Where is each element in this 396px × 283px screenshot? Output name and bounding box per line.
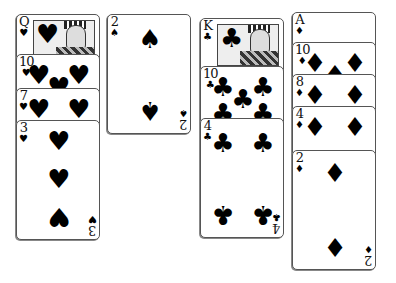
diamond-icon: ♦ [364,244,373,254]
card-index: K ♣ [203,19,212,42]
heart-icon: ♥ [88,214,97,224]
spade-icon: ♠ [138,98,161,124]
card-rank: 4 [273,222,280,235]
club-icon: ♣ [251,74,274,100]
diamond-icon: ♦ [303,82,326,108]
club-icon: ♣ [220,25,243,51]
card-index: A ♦ [295,13,304,36]
heart-icon: ♥ [19,134,28,144]
card-index: 2 ♠ [110,15,119,38]
card-2-of-diamonds[interactable]: 2 ♦ ♦ ♦ 2 ♦ [292,150,376,270]
card-rank: 2 [180,118,187,131]
card-index-bottom: 3 ♥ [88,214,97,237]
card-3-of-hearts[interactable]: 3 ♥ ♥ ♥ ♥ 3 ♥ [16,120,100,240]
heart-icon: ♥ [67,62,90,88]
heart-icon: ♥ [47,128,70,154]
heart-icon: ♥ [36,21,59,47]
diamond-icon: ♦ [295,164,304,174]
card-4-of-clubs[interactable]: 4 ♣ ♣ ♣ ♣ ♣ 4 ♣ [200,118,284,238]
card-index-bottom: 2 ♠ [179,108,188,131]
diamond-icon: ♦ [303,114,326,140]
heart-icon: ♥ [47,166,70,192]
diamond-icon: ♦ [343,50,366,76]
card-2-of-spades[interactable]: 2 ♠ ♠ ♠ 2 ♠ [107,14,191,134]
card-index: 2 ♦ [295,151,304,174]
heart-icon: ♥ [27,96,50,122]
club-icon: ♣ [211,202,234,228]
heart-icon: ♥ [67,96,90,122]
card-index-bottom: 2 ♦ [364,244,373,267]
diamond-icon: ♦ [295,26,304,36]
heart-icon: ♥ [47,204,70,230]
spade-icon: ♠ [138,26,161,52]
club-icon: ♣ [251,130,274,156]
diamond-icon: ♦ [323,234,346,260]
club-icon: ♣ [211,130,234,156]
card-index: 3 ♥ [19,121,28,144]
club-icon: ♣ [203,32,212,42]
club-icon: ♣ [272,212,281,222]
card-index: Q ♥ [19,15,29,38]
heart-icon: ♥ [19,28,28,38]
diamond-icon: ♦ [343,114,366,140]
card-rank: 3 [89,224,96,237]
diamond-icon: ♦ [343,82,366,108]
card-rank: 2 [365,254,372,267]
diamond-icon: ♦ [323,160,346,186]
king-face-art: ♣ [217,24,279,66]
spade-icon: ♠ [110,28,119,38]
robe-pattern [240,51,279,66]
spade-icon: ♠ [179,108,188,118]
card-index-bottom: 4 ♣ [272,212,281,235]
